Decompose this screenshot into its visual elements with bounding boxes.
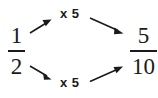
bottom-left-arrow-icon	[30, 66, 52, 80]
equivalent-fraction-diagram: 1 2 5 10 x 5 x 5	[0, 0, 158, 98]
arrow-layer	[0, 0, 158, 98]
top-left-arrow-icon	[30, 20, 52, 34]
bottom-right-arrow-icon	[90, 67, 123, 82]
top-right-arrow-icon	[90, 18, 124, 34]
